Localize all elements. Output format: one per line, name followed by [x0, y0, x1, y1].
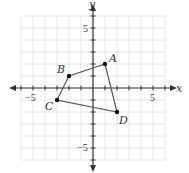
axes	[9, 4, 177, 172]
coordinate-plane: ADCB x y −5 5 5 −5	[0, 0, 189, 173]
vertex-label-c: C	[45, 100, 54, 113]
x-tick-label-neg5: −5	[25, 92, 36, 103]
y-axis-label: y	[88, 0, 96, 11]
y-tick-label-neg5: −5	[77, 142, 88, 153]
y-axis-arrow-down	[90, 165, 96, 172]
x-axis-arrow-left	[9, 85, 16, 91]
vertex-b	[67, 74, 71, 78]
vertex-c	[55, 98, 59, 102]
x-tick-label-5: 5	[150, 92, 155, 103]
y-tick-label-5: 5	[83, 23, 88, 34]
vertex-a	[103, 62, 107, 66]
vertex-label-b: B	[56, 63, 65, 76]
x-axis-label: x	[176, 82, 183, 95]
vertex-label-a: A	[108, 52, 117, 65]
vertex-label-d: D	[118, 114, 128, 127]
